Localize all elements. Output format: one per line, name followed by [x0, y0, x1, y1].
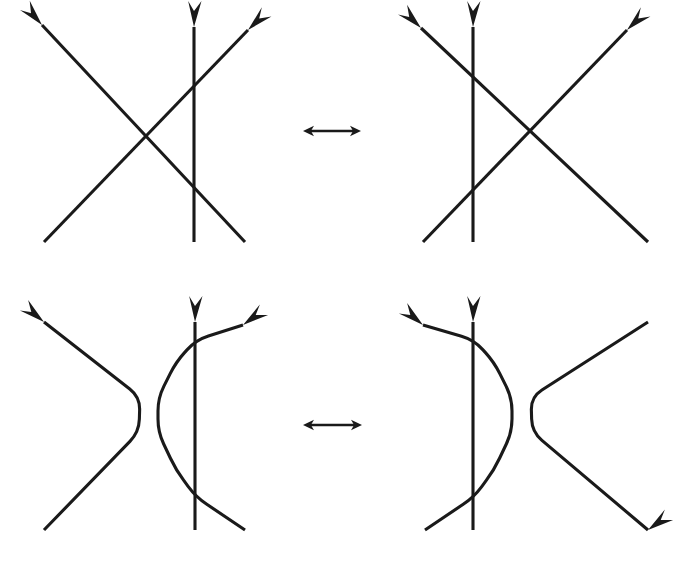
diagram-canvas — [0, 0, 674, 564]
strand-equivalence-figure — [0, 0, 674, 564]
